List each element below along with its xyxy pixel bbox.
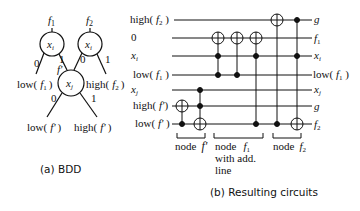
- circuit-caption: (b) Resulting circuits: [210, 186, 318, 198]
- bdd-terminal-high-f2: high(f2): [86, 78, 125, 92]
- bracket-node-f1: [214, 133, 263, 138]
- input-label-xi: xi: [130, 49, 138, 63]
- gate-toffoli-2: [194, 88, 206, 131]
- output-label-xj: xj: [313, 83, 321, 97]
- input-label-zero: 0: [131, 31, 137, 43]
- bdd-caption: (a) BDD: [40, 163, 81, 175]
- control-dot-icon: [216, 54, 221, 59]
- control-dot-icon: [216, 73, 221, 78]
- bracket-node-f2: [273, 133, 301, 138]
- output-label-f2: f2: [314, 118, 321, 132]
- figure-canvas: f1 f2 xi xi xj 0 1 0 1 f' 0 1 low(f1) hi…: [0, 0, 360, 211]
- group-label-node-f2: nodef2: [273, 140, 306, 154]
- input-label-xj: xj: [130, 83, 138, 97]
- bdd-edge-label-n2-1: 1: [105, 53, 111, 65]
- input-label-high-f2: high( f2 ): [130, 13, 169, 27]
- bdd-terminal-low-f1: low(f1): [17, 78, 53, 92]
- bdd-edge-label-n1-0: 0: [34, 57, 40, 69]
- circuit-input-labels: high( f2 ) 0 xi low( f1 ) xj high( f') l…: [130, 13, 170, 130]
- gate-cnot-4: [231, 32, 243, 78]
- bdd-edge-label-n3-0: 0: [51, 92, 57, 104]
- circuit-gates: [176, 14, 303, 130]
- group-label-node-fprime: nodef': [175, 139, 208, 153]
- bdd-terminal-high-fprime: high(f'): [74, 121, 112, 134]
- circuit-output-labels: g f1 xi low( f1 ) xj g f2: [313, 13, 349, 132]
- output-label-g-bottom: g: [314, 100, 320, 112]
- bdd-terminal-low-fprime: low(f'): [27, 121, 62, 134]
- bdd-edge-label-n2-0: 0: [80, 53, 86, 65]
- control-dot-icon: [180, 122, 185, 127]
- control-dot-icon: [275, 122, 280, 127]
- gate-toffoli-5: [250, 32, 262, 127]
- gate-toffoli-3: [212, 32, 224, 78]
- control-dot-icon: [295, 54, 300, 59]
- output-label-f1: f1: [314, 32, 321, 46]
- group-label-with-add: with add.: [215, 152, 256, 164]
- gate-cnot-1: [176, 100, 188, 127]
- control-dot-icon: [198, 104, 203, 109]
- output-label-g-top: g: [314, 13, 320, 25]
- control-dot-icon: [235, 73, 240, 78]
- control-dot-icon: [295, 18, 300, 23]
- input-label-low-f1: low( f1 ): [133, 68, 169, 82]
- group-brackets: [177, 133, 301, 138]
- control-dot-icon: [254, 122, 259, 127]
- bdd-label-f2: f2: [86, 14, 93, 28]
- bdd-label-f1: f1: [48, 14, 55, 28]
- output-label-xi: xi: [313, 49, 321, 63]
- control-dot-icon: [198, 88, 203, 93]
- bracket-node-fprime: [177, 133, 205, 138]
- bdd-edge-label-n3-1: 1: [91, 92, 97, 104]
- bdd-label-fprime: f': [57, 63, 63, 75]
- group-label-line: line: [215, 164, 232, 176]
- output-label-low-f1: low( f1 ): [313, 68, 349, 82]
- gate-cnot-6: [271, 14, 283, 127]
- gate-toffoli-7: [291, 18, 303, 131]
- input-label-high-fprime: high( f'): [133, 99, 168, 112]
- control-dot-icon: [254, 54, 259, 59]
- input-label-low-fprime: low( f' ): [135, 117, 170, 130]
